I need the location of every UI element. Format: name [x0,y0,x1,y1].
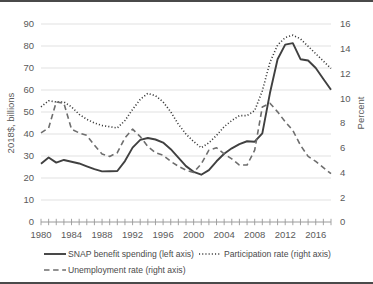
y2-axis-tick-label: 16 [340,18,351,29]
legend-label-participation: Participation rate (right axis) [224,249,331,259]
x-axis-tick-label: 1984 [61,229,82,240]
y2-axis-tick-label: 0 [340,216,345,227]
x-axis-tick-label: 1992 [122,229,143,240]
chart-canvas: 0102030405060708090024681012141619801984… [0,2,373,284]
y-axis-tick-label: 80 [23,40,34,51]
y-axis-tick-label: 30 [23,150,34,161]
x-axis-tick-label: 2012 [275,229,296,240]
x-axis-tick-label: 2000 [183,229,204,240]
y-axis-tick-label: 70 [23,62,34,73]
y2-axis-tick-label: 10 [340,93,351,104]
y2-axis-title: Percent [355,96,366,129]
y-axis-tick-label: 40 [23,128,34,139]
y-axis-tick-label: 90 [23,18,34,29]
y-axis-tick-label: 50 [23,106,34,117]
x-axis-tick-label: 2016 [305,229,326,240]
x-axis-tick-label: 1996 [153,229,174,240]
y-axis-tick-label: 10 [23,194,34,205]
series-line-2 [41,35,331,148]
series-line-3 [41,102,331,174]
y-axis-title: 2018$, billions [5,92,16,153]
y-axis-tick-label: 0 [29,216,34,227]
x-axis-tick-label: 1988 [91,229,112,240]
chart-figure: 0102030405060708090024681012141619801984… [0,0,373,284]
y-axis-tick-label: 20 [23,172,34,183]
x-axis-tick-label: 2004 [214,229,235,240]
legend-label-unemployment: Unemployment rate (right axis) [68,265,186,275]
y-axis-tick-label: 60 [23,84,34,95]
y2-axis-tick-label: 8 [340,117,345,128]
x-axis-tick-label: 2008 [244,229,265,240]
y2-axis-tick-label: 14 [340,43,351,54]
y2-axis-tick-label: 4 [340,167,345,178]
x-axis-tick-label: 1980 [30,229,51,240]
y2-axis-tick-label: 6 [340,142,345,153]
y2-axis-tick-label: 2 [340,192,345,203]
series-line-1 [41,43,331,175]
legend-label-snap: SNAP benefit spending (left axis) [68,249,194,259]
y2-axis-tick-label: 12 [340,68,351,79]
